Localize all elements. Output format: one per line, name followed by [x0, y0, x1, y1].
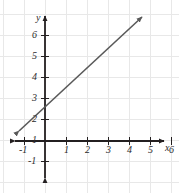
y-tick-label-2: 2 — [32, 114, 37, 124]
x-tick-label-2: 2 — [85, 145, 90, 155]
coordinate-plane-svg — [0, 0, 179, 193]
x-tick-label-1: 1 — [64, 145, 69, 155]
plot-background — [0, 0, 179, 193]
x-tick-label-6: 6 — [169, 145, 174, 155]
y-tick-label-4: 4 — [32, 72, 37, 82]
x-tick-label-4: 4 — [127, 145, 132, 155]
x-tick-label-minus-1: -1 — [19, 145, 27, 155]
y-tick-label-3: 3 — [32, 93, 37, 103]
graph-figure: y x 6 5 4 3 2 1 -1 -1 1 2 3 4 5 6 — [0, 0, 179, 193]
y-tick-label-5: 5 — [32, 51, 37, 61]
x-tick-label-5: 5 — [148, 145, 153, 155]
y-tick-label-6: 6 — [32, 30, 37, 40]
x-tick-label-3: 3 — [106, 145, 111, 155]
y-tick-label-1: 1 — [32, 135, 37, 145]
y-axis-label: y — [36, 13, 40, 23]
y-tick-label-minus-1: -1 — [28, 156, 36, 166]
